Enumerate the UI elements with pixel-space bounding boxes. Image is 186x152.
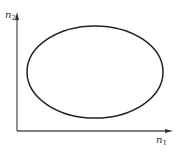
y-axis-label-sub: 2 [11, 14, 15, 22]
x-axis-label-sub: 1 [162, 139, 166, 147]
diagram: n2 n1 [0, 0, 186, 152]
diagram-canvas [0, 0, 186, 152]
x-axis-label: n1 [156, 135, 167, 147]
y-axis-label: n2 [5, 10, 16, 22]
ellipse-curve [27, 26, 163, 118]
x-axis-arrow-icon [165, 129, 173, 133]
